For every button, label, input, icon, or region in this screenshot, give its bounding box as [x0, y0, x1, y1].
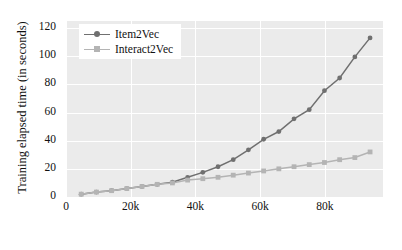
- chart-figure: Training elapsed time (in seconds) 02040…: [0, 0, 402, 250]
- data-point-interact2vec: [292, 164, 297, 169]
- x-tick-label: 80k: [305, 200, 345, 212]
- y-tick-label: 60: [4, 105, 56, 117]
- x-tick-label: 20k: [111, 200, 151, 212]
- data-point-item2vec: [276, 129, 281, 134]
- data-point-item2vec: [307, 107, 312, 112]
- data-point-item2vec: [246, 147, 251, 152]
- y-tick-label: 80: [4, 76, 56, 88]
- y-tick-label: 40: [4, 133, 56, 145]
- legend-item-interact2vec[interactable]: Interact2Vec: [84, 43, 173, 55]
- data-point-interact2vec: [368, 150, 373, 155]
- y-tick-label: 100: [4, 48, 56, 60]
- data-point-item2vec: [337, 76, 342, 81]
- x-tick-label: 0: [46, 200, 86, 212]
- data-point-item2vec: [352, 55, 357, 60]
- data-point-interact2vec: [155, 182, 160, 187]
- data-point-interact2vec: [140, 184, 145, 189]
- data-point-interact2vec: [337, 157, 342, 162]
- data-point-item2vec: [322, 88, 327, 93]
- data-point-interact2vec: [170, 181, 175, 186]
- data-point-item2vec: [261, 137, 266, 142]
- y-tick-label: 20: [4, 161, 56, 173]
- data-point-interact2vec: [185, 178, 190, 183]
- legend-swatch-item2vec: [84, 29, 110, 39]
- data-point-interact2vec: [261, 169, 266, 174]
- data-point-interact2vec: [200, 176, 205, 181]
- data-point-interact2vec: [216, 175, 221, 180]
- data-point-item2vec: [231, 157, 236, 162]
- data-point-interact2vec: [79, 192, 84, 197]
- data-point-item2vec: [368, 35, 373, 40]
- data-point-interact2vec: [322, 160, 327, 165]
- x-tick-label: 60k: [240, 200, 280, 212]
- y-tick-label: 120: [4, 20, 56, 32]
- data-point-item2vec: [216, 164, 221, 169]
- data-point-item2vec: [292, 116, 297, 121]
- chart-legend: Item2Vec Interact2Vec: [79, 24, 181, 59]
- series-line-item2vec: [81, 38, 370, 194]
- data-point-interact2vec: [109, 188, 114, 193]
- legend-label-item2vec: Item2Vec: [115, 28, 159, 40]
- legend-swatch-interact2vec: [84, 44, 110, 54]
- legend-label-interact2vec: Interact2Vec: [115, 43, 173, 55]
- data-point-item2vec: [200, 170, 205, 175]
- data-point-interact2vec: [352, 155, 357, 160]
- data-point-interact2vec: [94, 190, 99, 195]
- data-point-interact2vec: [231, 173, 236, 178]
- data-point-interact2vec: [246, 171, 251, 176]
- legend-item-item2vec[interactable]: Item2Vec: [84, 28, 173, 40]
- data-point-interact2vec: [307, 162, 312, 167]
- data-point-interact2vec: [276, 166, 281, 171]
- data-point-interact2vec: [124, 186, 129, 191]
- x-tick-label: 40k: [175, 200, 215, 212]
